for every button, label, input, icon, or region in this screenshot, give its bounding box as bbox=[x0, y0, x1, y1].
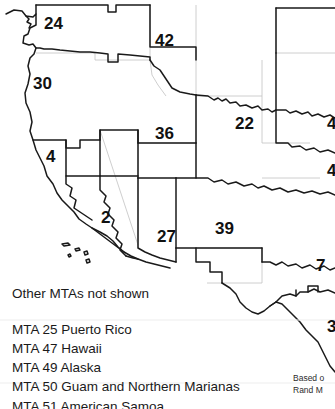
legend-item-mta-49: MTA 49 Alaska bbox=[12, 358, 242, 377]
region-label-27: 27 bbox=[157, 228, 176, 245]
region-label-4: 4 bbox=[46, 148, 55, 165]
region-label-22: 22 bbox=[235, 115, 254, 132]
region-label-7: 7 bbox=[316, 257, 325, 274]
region-label-24: 24 bbox=[44, 15, 63, 32]
region-label-edge-middle: 4 bbox=[327, 162, 335, 179]
region-label-42: 42 bbox=[155, 32, 174, 49]
mta-map-figure: 24 42 30 36 22 4 2 27 39 7 4 4 3 Other M… bbox=[0, 0, 335, 409]
region-label-36: 36 bbox=[155, 125, 174, 142]
region-label-2: 2 bbox=[101, 209, 110, 226]
region-label-edge-lower: 3 bbox=[327, 318, 335, 335]
source-note-line-2: Rand M bbox=[293, 384, 335, 396]
region-label-edge-upper: 4 bbox=[327, 115, 335, 132]
legend-heading: Other MTAs not shown bbox=[12, 286, 242, 303]
legend: Other MTAs not shown MTA 25 Puerto Rico … bbox=[12, 286, 242, 409]
region-label-30: 30 bbox=[33, 75, 52, 92]
source-note: Based o Rand M bbox=[293, 372, 335, 397]
legend-item-mta-51: MTA 51 American Samoa bbox=[12, 397, 242, 409]
legend-item-mta-50: MTA 50 Guam and Northern Marianas bbox=[12, 377, 242, 396]
legend-item-mta-47: MTA 47 Hawaii bbox=[12, 339, 242, 358]
source-note-line-1: Based o bbox=[293, 372, 335, 384]
legend-list: MTA 25 Puerto Rico MTA 47 Hawaii MTA 49 … bbox=[12, 320, 242, 409]
region-label-39: 39 bbox=[215, 220, 234, 237]
legend-item-mta-25: MTA 25 Puerto Rico bbox=[12, 320, 242, 339]
